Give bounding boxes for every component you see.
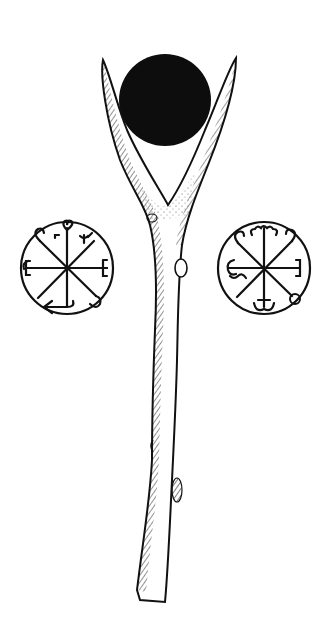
right-sigil [218, 222, 310, 314]
left-sigil [21, 221, 113, 315]
knot [175, 259, 187, 277]
divining-rod-illustration [0, 0, 331, 642]
black-sun-disc [119, 54, 211, 146]
knot [172, 478, 182, 502]
